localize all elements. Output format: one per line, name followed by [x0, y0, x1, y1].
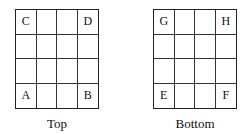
grid-cell [57, 10, 78, 35]
grid-cell [78, 35, 99, 60]
grid-cell: C [16, 10, 37, 35]
grid-cell [57, 59, 78, 84]
grid-cell [175, 84, 196, 109]
grid-cell [154, 59, 175, 84]
grid-cell [195, 84, 216, 109]
top-caption: Top [15, 116, 99, 132]
grid-cell [37, 59, 58, 84]
grid-cell [195, 59, 216, 84]
grid-cell [37, 84, 58, 109]
grid-cell [216, 59, 237, 84]
grid-cell [57, 84, 78, 109]
grid-cell [195, 10, 216, 35]
grid-cell [195, 35, 216, 60]
grid-cell [175, 10, 196, 35]
top-grid: C D A B [15, 9, 99, 109]
grid-cell: F [216, 84, 237, 109]
grid-cell: H [216, 10, 237, 35]
grid-cell [16, 59, 37, 84]
grid-cell: G [154, 10, 175, 35]
bottom-caption: Bottom [153, 116, 237, 132]
bottom-grid: G H E F [153, 9, 237, 109]
grid-cell [57, 35, 78, 60]
grid-cell: D [78, 10, 99, 35]
grid-cell [37, 10, 58, 35]
grid-cell [175, 35, 196, 60]
grid-cell: B [78, 84, 99, 109]
grid-cell: A [16, 84, 37, 109]
grid-cell [78, 59, 99, 84]
grid-cell [154, 35, 175, 60]
grid-cell [37, 35, 58, 60]
grid-cell [216, 35, 237, 60]
top-panel: C D A B Top [15, 9, 99, 109]
grid-cell [175, 59, 196, 84]
bottom-panel: G H E F Bottom [153, 9, 237, 109]
grid-cell [16, 35, 37, 60]
grid-cell: E [154, 84, 175, 109]
